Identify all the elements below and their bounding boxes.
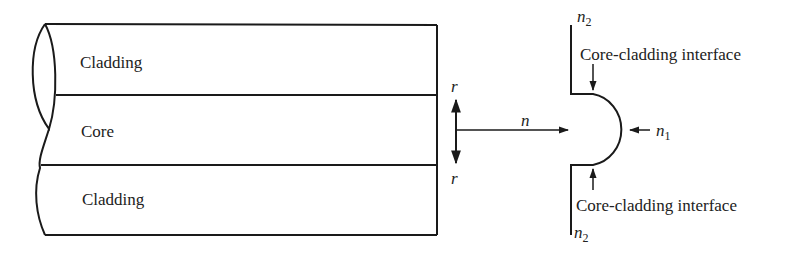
bottom-interface-label: Core-cladding interface — [576, 197, 737, 214]
diagram-lines — [0, 0, 804, 259]
core-label: Core — [81, 123, 114, 140]
index-axis-label: n — [521, 112, 530, 129]
radius-bottom-label: r — [451, 170, 458, 187]
n1-label: n1 — [656, 122, 671, 142]
cladding-top-label: Cladding — [80, 54, 142, 71]
fiber-refractive-index-diagram: Cladding Core Cladding r r n n2 Core-cla… — [0, 0, 804, 259]
n2-top-label: n2 — [577, 8, 592, 28]
radius-top-label: r — [451, 78, 458, 95]
n2-bottom-label: n2 — [574, 224, 589, 244]
top-interface-label: Core-cladding interface — [580, 46, 741, 63]
cladding-bottom-label: Cladding — [82, 191, 144, 208]
